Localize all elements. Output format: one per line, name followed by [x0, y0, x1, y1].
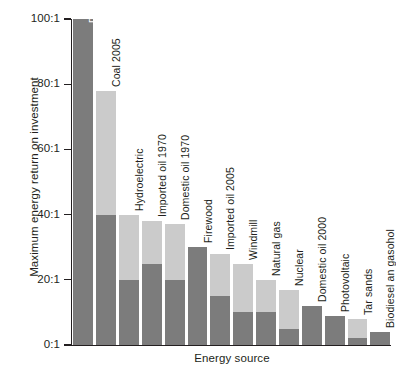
bar-segment-lower: [348, 338, 368, 345]
bar-segment-lower: [210, 296, 230, 345]
bar-segment-lower: [73, 19, 93, 345]
bar[interactable]: [165, 224, 185, 345]
x-axis-line: [71, 345, 391, 346]
bar-segment-lower: [302, 306, 322, 345]
bar[interactable]: [96, 91, 116, 345]
y-tick-mark: [64, 18, 71, 19]
bar-segment-lower: [256, 312, 276, 345]
bar-segment-lower: [142, 264, 162, 346]
bar-segment-upper: [348, 319, 368, 339]
bar-category-label: Hydroelectric: [134, 148, 145, 211]
bar[interactable]: [233, 264, 253, 346]
bar-segment-upper: [210, 254, 230, 296]
bar-category-label: Coal 2005: [111, 38, 122, 87]
bar-category-label: Natural gas: [271, 221, 282, 276]
bar-segment-lower: [325, 316, 345, 345]
bar-segment-lower: [119, 280, 139, 345]
y-tick-mark: [64, 344, 71, 345]
bar-segment-lower: [165, 280, 185, 345]
y-tick-label: 80:1: [0, 78, 60, 90]
bar-segment-lower: [96, 215, 116, 345]
bar-segment-upper: [96, 91, 116, 215]
y-tick-label: 60:1: [0, 143, 60, 155]
bar-category-label: Nuclear: [294, 249, 305, 286]
bar-category-label: Imported oil 1970: [157, 134, 168, 217]
y-tick-mark: [64, 214, 71, 215]
bar-category-label: Windmill: [248, 219, 259, 259]
bar[interactable]: [325, 316, 345, 345]
bar[interactable]: [210, 254, 230, 345]
y-tick-mark: [64, 279, 71, 280]
bar-segment-upper: [165, 224, 185, 279]
bar[interactable]: [188, 247, 208, 345]
bar-segment-upper: [233, 264, 253, 313]
y-tick-label: 20:1: [0, 274, 60, 286]
y-tick-mark: [64, 84, 71, 85]
bar[interactable]: [142, 221, 162, 345]
bar-category-label: Firewood: [203, 199, 214, 243]
bar-category-label: Domestic oil 2000: [317, 217, 328, 302]
bar-segment-upper: [119, 215, 139, 280]
plot-area: Domestic oil 1930Coal 2005HydroelectricI…: [72, 19, 392, 345]
bar-segment-upper: [256, 280, 276, 313]
bar[interactable]: [348, 319, 368, 345]
bar-segment-lower: [279, 329, 299, 345]
y-tick-label: 40:1: [0, 209, 60, 221]
y-tick-mark: [64, 149, 71, 150]
bar[interactable]: [302, 306, 322, 345]
x-axis-title: Energy source: [72, 352, 392, 364]
bar-category-label: Biodiesel an gasohol: [385, 229, 396, 328]
bar-segment-lower: [188, 247, 208, 345]
bar-category-label: Tar sands: [363, 268, 374, 314]
bar-segment-upper: [142, 221, 162, 263]
bar[interactable]: [279, 290, 299, 345]
bar[interactable]: [256, 280, 276, 345]
bar-segment-upper: [279, 290, 299, 329]
bar[interactable]: [370, 332, 390, 345]
y-tick-label: 0:1: [0, 339, 60, 351]
bar[interactable]: [119, 215, 139, 345]
bar[interactable]: [73, 19, 93, 345]
y-tick-label: 100:1: [0, 13, 60, 25]
bar-category-label: Domestic oil 1970: [180, 135, 191, 220]
bar-segment-lower: [370, 332, 390, 345]
bar-category-label: Photovoltaic: [340, 253, 351, 311]
bar-category-label: Imported oil 2005: [225, 167, 236, 250]
bar-segment-lower: [233, 312, 253, 345]
